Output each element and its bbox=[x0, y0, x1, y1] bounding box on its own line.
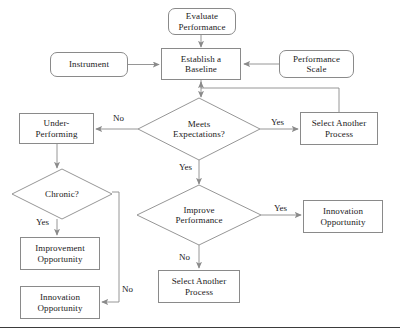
node-select-another-process-top-label: Select Another Process bbox=[310, 118, 369, 138]
node-meets-expectations-label: Meets Expectations? bbox=[171, 119, 227, 139]
node-instrument[interactable]: Instrument bbox=[50, 52, 128, 77]
text-line-2: Opportunity bbox=[37, 303, 82, 313]
node-select-another-process-top[interactable]: Select Another Process bbox=[300, 112, 378, 145]
flowchart-canvas: Under-Performing --> Select Another Proc… bbox=[0, 0, 400, 335]
text-line-1: Meets bbox=[188, 119, 211, 129]
node-select-another-process-bottom[interactable]: Select Another Process bbox=[158, 270, 240, 303]
node-evaluate-performance[interactable]: Evaluate Performance bbox=[168, 8, 236, 35]
node-innovation-opportunity-bottom[interactable]: Innovation Opportunity bbox=[20, 286, 100, 319]
node-chronic[interactable]: Chronic? bbox=[12, 169, 112, 219]
text-line-1: Instrument bbox=[69, 59, 109, 69]
edge-label-chronic-yes: Yes bbox=[35, 218, 50, 227]
edge-label-improve-yes: Yes bbox=[273, 204, 288, 213]
text-line-2: Performance bbox=[178, 22, 225, 32]
node-under-performing[interactable]: Under- Performing bbox=[19, 113, 94, 144]
node-meets-expectations[interactable]: Meets Expectations? bbox=[138, 98, 260, 160]
node-improvement-opportunity[interactable]: Improvement Opportunity bbox=[20, 237, 100, 270]
text-line-1: Under- bbox=[44, 118, 70, 128]
node-under-performing-label: Under- Performing bbox=[34, 118, 80, 138]
node-innovation-opportunity-bottom-label: Innovation Opportunity bbox=[35, 292, 84, 312]
node-performance-scale[interactable]: Performance Scale bbox=[279, 50, 354, 78]
text-line-1: Chronic? bbox=[45, 189, 79, 199]
node-improve-performance[interactable]: Improve Performance bbox=[137, 185, 261, 245]
text-line-2: Scale bbox=[306, 64, 326, 74]
bottom-horizontal-rule bbox=[0, 327, 400, 328]
node-instrument-label: Instrument bbox=[67, 59, 111, 69]
text-line-1: Improvement bbox=[35, 243, 85, 253]
node-performance-scale-label: Performance Scale bbox=[291, 54, 342, 74]
node-innovation-opportunity-right[interactable]: Innovation Opportunity bbox=[303, 200, 383, 233]
text-line-2: Process bbox=[185, 287, 213, 297]
text-line-2: Performance bbox=[175, 215, 222, 225]
text-line-2: Performing bbox=[36, 129, 78, 139]
node-chronic-label: Chronic? bbox=[43, 189, 81, 199]
node-establish-baseline-label: Establish a Baseline bbox=[179, 54, 223, 74]
text-line-1: Select Another bbox=[172, 276, 227, 286]
node-improve-performance-label: Improve Performance bbox=[173, 205, 224, 225]
text-line-2: Process bbox=[325, 129, 353, 139]
edge-label-improve-no: No bbox=[178, 253, 191, 262]
node-select-another-process-bottom-label: Select Another Process bbox=[170, 276, 229, 296]
text-line-1: Select Another bbox=[312, 118, 367, 128]
text-line-1: Innovation bbox=[40, 292, 80, 302]
text-line-1: Innovation bbox=[323, 206, 363, 216]
edge-label-meets-yes-right: Yes bbox=[270, 118, 285, 127]
text-line-2: Opportunity bbox=[37, 254, 82, 264]
node-establish-baseline[interactable]: Establish a Baseline bbox=[161, 48, 241, 80]
text-line-2: Expectations? bbox=[173, 129, 225, 139]
text-line-1: Establish a bbox=[181, 54, 221, 64]
node-innovation-opportunity-right-label: Innovation Opportunity bbox=[318, 206, 367, 226]
node-evaluate-performance-label: Evaluate Performance bbox=[176, 11, 227, 31]
edge-label-meets-yes-down: Yes bbox=[178, 163, 193, 172]
text-line-1: Improve bbox=[183, 205, 214, 215]
edge-label-meets-no: No bbox=[112, 114, 125, 123]
text-line-2: Baseline bbox=[185, 64, 217, 74]
text-line-1: Performance bbox=[293, 54, 340, 64]
edge-label-chronic-no: No bbox=[121, 285, 134, 294]
node-improvement-opportunity-label: Improvement Opportunity bbox=[33, 243, 87, 263]
text-line-1: Evaluate bbox=[186, 11, 218, 21]
text-line-2: Opportunity bbox=[320, 217, 365, 227]
